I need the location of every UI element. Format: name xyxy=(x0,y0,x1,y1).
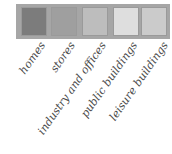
swatch-stores xyxy=(51,7,77,36)
swatch-industry-and-offices xyxy=(82,7,108,36)
label-text: public buildings xyxy=(79,40,139,120)
swatch-leisure-buildings xyxy=(141,7,167,36)
label-text: leisure buildings xyxy=(108,40,170,123)
legend-bar xyxy=(16,4,170,39)
swatch-homes xyxy=(21,7,47,36)
label-text: stores xyxy=(48,40,77,74)
label-text: homes xyxy=(17,40,47,76)
swatch-public-buildings xyxy=(113,7,139,36)
